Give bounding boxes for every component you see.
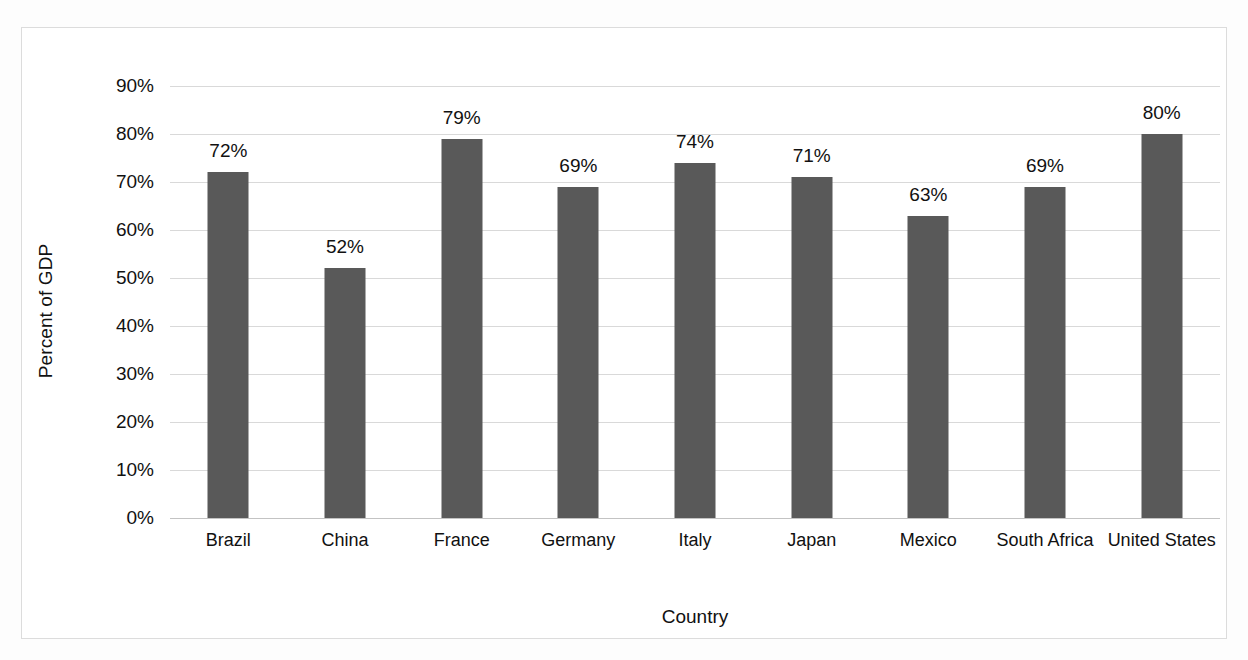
bar[interactable] [441, 139, 482, 518]
y-axis-tick-label: 50% [44, 267, 154, 289]
x-axis-category-label: Japan [752, 528, 872, 553]
bar-value-label: 74% [676, 131, 714, 153]
bar[interactable] [558, 187, 599, 518]
bar-value-label: 72% [209, 140, 247, 162]
bar-group: 71%Japan [753, 86, 870, 518]
bar[interactable] [324, 268, 365, 518]
bar-group: 52%China [287, 86, 404, 518]
y-axis-tick-label: 10% [44, 459, 154, 481]
bar[interactable] [791, 177, 832, 518]
bar[interactable] [674, 163, 715, 518]
bar-group: 63%Mexico [870, 86, 987, 518]
bar-group: 80%United States [1103, 86, 1220, 518]
x-axis-category-label: France [402, 528, 522, 553]
x-axis-category-label: United States [1102, 528, 1222, 553]
bar[interactable] [208, 172, 249, 518]
y-axis-tick-label: 0% [44, 507, 154, 529]
bar-chart-figure: Percent of GDP 0%10%20%30%40%50%60%70%80… [0, 0, 1248, 660]
bar-value-label: 69% [559, 155, 597, 177]
x-axis-title: Country [170, 606, 1220, 628]
bar-value-label: 63% [909, 184, 947, 206]
bar-value-label: 52% [326, 236, 364, 258]
bar[interactable] [1024, 187, 1065, 518]
bar-group: 79%France [403, 86, 520, 518]
bar[interactable] [908, 216, 949, 518]
y-axis-tick-label: 40% [44, 315, 154, 337]
x-axis-category-label: Mexico [868, 528, 988, 553]
bar-group: 74%Italy [637, 86, 754, 518]
x-axis-category-label: Italy [635, 528, 755, 553]
bar-value-label: 80% [1143, 102, 1181, 124]
x-axis-category-label: China [285, 528, 405, 553]
y-axis-tick-label: 60% [44, 219, 154, 241]
bar-group: 72%Brazil [170, 86, 287, 518]
gridline-0% [170, 518, 1220, 519]
y-axis-tick-label: 80% [44, 123, 154, 145]
bar-value-label: 79% [443, 107, 481, 129]
bar-value-label: 69% [1026, 155, 1064, 177]
x-axis-category-label: Germany [518, 528, 638, 553]
y-axis-tick-label: 90% [44, 75, 154, 97]
bar-group: 69%Germany [520, 86, 637, 518]
bar-group: 69%South Africa [987, 86, 1104, 518]
x-axis-category-label: South Africa [985, 528, 1105, 553]
x-axis-category-label: Brazil [168, 528, 288, 553]
bar[interactable] [1141, 134, 1182, 518]
y-axis-tick-label: 20% [44, 411, 154, 433]
y-axis-tick-label: 70% [44, 171, 154, 193]
plot-area: 0%10%20%30%40%50%60%70%80%90%72%Brazil52… [170, 86, 1220, 518]
y-axis-tick-label: 30% [44, 363, 154, 385]
bar-value-label: 71% [793, 145, 831, 167]
chart-frame: Percent of GDP 0%10%20%30%40%50%60%70%80… [21, 27, 1227, 639]
